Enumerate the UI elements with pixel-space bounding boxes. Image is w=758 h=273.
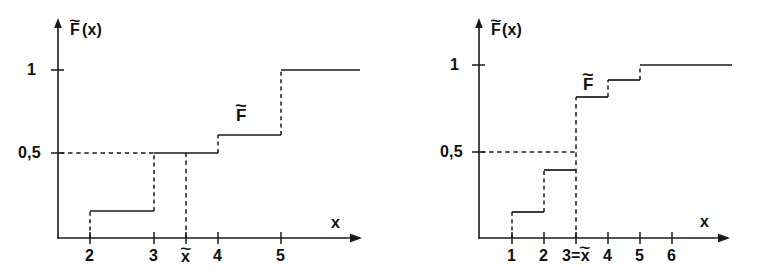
right-x-axis-arrowhead <box>718 233 730 242</box>
right-ytick-label-half: 0,5 <box>440 144 463 160</box>
right-curve-label: ~ F <box>583 76 594 93</box>
right-y-axis-arrowhead <box>475 18 483 28</box>
charts-canvas <box>0 0 758 273</box>
left-ytick-label-1: 1 <box>27 62 36 78</box>
left-xtick-label-3: 3 <box>149 248 158 264</box>
left-y-axis-label-suffix: (x) <box>82 22 102 38</box>
right-xtick-label-5: 5 <box>635 248 644 264</box>
left-ytick-label-half: 0,5 <box>18 145 41 161</box>
left-y-axis-arrowhead <box>54 18 62 28</box>
right-xtick-label-2: 2 <box>539 248 548 264</box>
right-xtick-label-6: 6 <box>667 248 676 264</box>
left-x-axis-arrowhead <box>350 233 362 242</box>
right-median-label-tilde: ~ <box>580 240 591 255</box>
left-curve-label: ~ F <box>236 107 247 124</box>
right-curve-label-tilde: ~ <box>582 66 594 82</box>
right-ytick-label-1: 1 <box>450 57 459 73</box>
figure-root: ~ F (x) 1 0,5 2 3 ~ x 4 5 x ~ F ~ F (x) … <box>0 0 758 273</box>
right-x-axis-label: x <box>700 214 709 230</box>
right-y-axis-label: ~ F (x) <box>491 22 522 38</box>
left-xtick-label-median: ~ x <box>181 249 190 265</box>
left-x-axis-label: x <box>331 215 340 231</box>
left-panel-group <box>51 18 362 244</box>
right-panel-group <box>472 18 732 244</box>
left-xtick-label-4: 4 <box>213 248 222 264</box>
right-median-label-prefix: 3= <box>562 248 581 264</box>
left-xtick-label-5: 5 <box>276 248 285 264</box>
right-y-axis-label-tilde: ~ <box>490 13 501 28</box>
left-median-label-tilde: ~ <box>180 241 191 256</box>
right-xtick-label-4: 4 <box>603 248 612 264</box>
right-y-axis-label-suffix: (x) <box>502 22 522 38</box>
left-y-axis-label: ~ F (x) <box>70 22 102 38</box>
left-y-axis-label-tilde: ~ <box>69 13 80 28</box>
right-xtick-label-3-median: 3= ~ x <box>562 248 590 264</box>
left-xtick-label-2: 2 <box>85 248 94 264</box>
right-xtick-label-1: 1 <box>507 248 516 264</box>
left-curve-label-tilde: ~ <box>235 97 247 113</box>
